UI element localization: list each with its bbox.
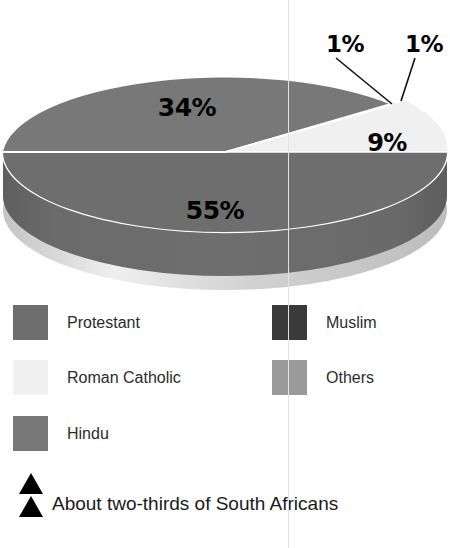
legend-item-protestant: Protestant	[13, 305, 140, 340]
data-label-others: 1%	[405, 31, 443, 57]
pie-chart-figure: 34% 55% 9% 1% 1% Protestant Roman Cathol…	[0, 0, 450, 548]
legend-label-roman-catholic: Roman Catholic	[67, 369, 181, 387]
triangle-up-icon-stack	[19, 473, 45, 519]
data-label-protestant: 55%	[186, 196, 244, 225]
legend-item-roman-catholic: Roman Catholic	[13, 360, 181, 395]
triangle-up-icon	[19, 473, 43, 494]
triangle-up-icon	[19, 496, 43, 517]
data-label-hindu: 34%	[158, 93, 216, 122]
data-label-roman-catholic: 9%	[367, 129, 407, 157]
footnote-text: About two-thirds of South Africans	[52, 493, 338, 515]
legend-label-muslim: Muslim	[326, 314, 377, 332]
legend-item-hindu: Hindu	[13, 416, 109, 451]
legend-item-muslim: Muslim	[272, 305, 377, 340]
legend-item-others: Others	[272, 360, 374, 395]
legend-label-protestant: Protestant	[67, 314, 140, 332]
chart-legend: Protestant Roman Catholic Hindu Muslim O…	[0, 305, 450, 470]
legend-swatch-protestant	[13, 305, 48, 340]
chart-footnote: About two-thirds of South Africans	[0, 470, 450, 548]
legend-swatch-hindu	[13, 416, 48, 451]
legend-swatch-roman-catholic	[13, 360, 48, 395]
data-label-muslim: 1%	[326, 31, 364, 57]
legend-swatch-muslim	[272, 305, 307, 340]
callout-line-others	[401, 58, 415, 101]
legend-swatch-others	[272, 360, 307, 395]
legend-label-hindu: Hindu	[67, 425, 109, 443]
legend-label-others: Others	[326, 369, 374, 387]
